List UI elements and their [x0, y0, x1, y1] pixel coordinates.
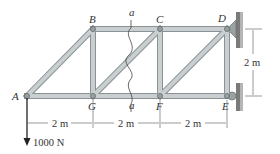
node-label-f: F [155, 100, 163, 112]
node-label-g: G [88, 100, 96, 112]
dim-label-de: 2 m [244, 57, 260, 68]
section-label-bottom: a [129, 99, 135, 111]
joint-f [158, 94, 163, 99]
joint-c [158, 27, 163, 32]
node-label-d: D [217, 12, 226, 24]
dim-label-fe: 2 m [185, 118, 201, 129]
joint-b [91, 27, 96, 32]
load-arrow [24, 98, 31, 146]
load-label: 1000 N [33, 137, 65, 148]
node-label-a: A [11, 90, 19, 102]
joint-a [25, 94, 30, 99]
joint-e [225, 94, 230, 99]
dim-label-gf: 2 m [118, 118, 134, 129]
node-label-c: C [156, 13, 164, 25]
joint-d [225, 27, 230, 32]
dim-label-ag: 2 m [52, 118, 68, 129]
wall-support-e [228, 83, 243, 111]
section-label-top: a [129, 6, 135, 18]
node-label-e: E [221, 100, 229, 112]
truss-members [27, 29, 227, 96]
node-label-b: B [89, 13, 96, 25]
truss-diagram: A B C D E F G a a 1000 N 2 m 2 m 2 m 2 m [0, 0, 280, 154]
joint-g [91, 94, 96, 99]
